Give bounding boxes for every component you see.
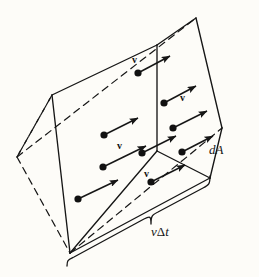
velocity-vector-label-1: v	[132, 55, 137, 65]
edge-hidden-lower-left	[17, 157, 70, 253]
area-element-label: dA	[209, 143, 223, 156]
flux-volume-figure: dA vΔt v v v v	[0, 0, 259, 277]
particle-dot	[178, 148, 185, 155]
edge-front-bottom-left-short	[70, 151, 157, 253]
length-label-delta: Δ	[157, 224, 165, 239]
particle-dot	[74, 195, 81, 202]
length-label-time: t	[165, 224, 169, 239]
length-dimension-label: vΔt	[151, 225, 169, 238]
particle-dot	[99, 163, 106, 170]
velocity-arrow-4	[169, 111, 207, 132]
particle-dot	[138, 149, 145, 156]
particle-dot	[160, 99, 167, 106]
edge-top-front-long	[52, 45, 157, 95]
edge-front-left-vertical	[52, 95, 70, 253]
velocity-arrow-1	[134, 56, 170, 77]
particle-dot	[147, 178, 154, 185]
velocity-arrow-9	[74, 180, 118, 203]
box-hidden-edges	[17, 18, 222, 253]
figure-canvas	[0, 0, 259, 277]
velocity-arrow-8	[147, 165, 185, 186]
face-right-da-edge-top	[196, 18, 222, 128]
particle-dot	[100, 131, 107, 138]
velocity-vector-label-3: v	[117, 141, 122, 151]
velocity-arrows-group	[74, 56, 213, 203]
particle-dot	[134, 69, 141, 76]
velocity-arrow-2	[160, 86, 196, 107]
particle-dot	[169, 124, 176, 131]
edge-bottom-front-long	[70, 178, 210, 253]
velocity-vector-label-4: v	[144, 169, 149, 179]
velocity-arrow-6	[178, 136, 213, 156]
velocity-arrow-7	[99, 146, 146, 171]
box-solid-edges	[52, 18, 222, 253]
velocity-arrow-3	[100, 118, 138, 139]
velocity-vector-label-2: v	[180, 93, 185, 103]
